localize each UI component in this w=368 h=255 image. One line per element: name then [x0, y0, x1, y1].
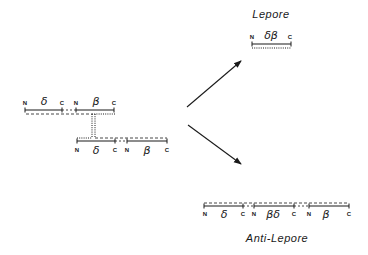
- top-delta-label: δ: [41, 96, 48, 107]
- anti-c2-label: C: [292, 211, 296, 217]
- top-c2-label: C: [112, 100, 116, 106]
- crossover-diagram-graphics: [0, 0, 368, 255]
- bottom-c2-label: C: [165, 147, 169, 153]
- top-c1-label: C: [60, 100, 64, 106]
- anti-lepore-title: Anti-Lepore: [246, 233, 308, 244]
- bottom-delta-label: δ: [93, 145, 100, 156]
- anti-c3-label: C: [347, 211, 351, 217]
- top-beta-label: β: [92, 96, 99, 107]
- top-parent-chromosome: [25, 108, 115, 115]
- bottom-parent-chromosome: [77, 139, 167, 144]
- bottom-n2-label: N: [125, 147, 129, 153]
- bottom-beta-label: β: [143, 145, 150, 156]
- lepore-title: Lepore: [252, 9, 289, 20]
- lepore-c-label: C: [288, 34, 292, 40]
- lepore-deltabeta-label: δβ: [264, 30, 278, 41]
- arrow-to-anti-lepore: [188, 125, 241, 164]
- bottom-c1-label: C: [113, 147, 117, 153]
- anti-n2-label: N: [252, 211, 256, 217]
- anti-delta-label: δ: [221, 209, 228, 220]
- crossover-connector: [77, 114, 167, 138]
- lepore-chromosome: [252, 42, 291, 49]
- bottom-n1-label: N: [75, 147, 79, 153]
- arrow-to-lepore: [187, 61, 241, 107]
- top-n2-label: N: [74, 100, 78, 106]
- lepore-n-label: N: [250, 34, 254, 40]
- anti-c1-label: C: [241, 211, 245, 217]
- anti-n1-label: N: [203, 211, 207, 217]
- anti-n3-label: N: [307, 211, 311, 217]
- anti-beta-label: β: [322, 209, 329, 220]
- top-n1-label: N: [23, 100, 27, 106]
- anti-betadelta-label: βδ: [266, 209, 280, 220]
